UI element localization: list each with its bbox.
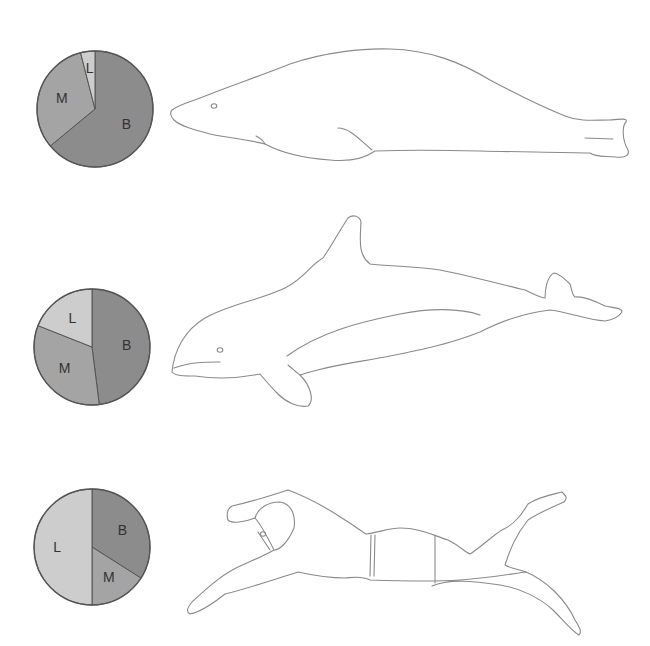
pie-label-B: B: [122, 337, 131, 353]
dolphin-figure: [160, 200, 640, 420]
pie-label-L: L: [69, 310, 77, 326]
row-manatee: BML: [0, 0, 650, 190]
manatee-figure: [160, 40, 640, 180]
pie-chart-2: BML: [27, 282, 157, 412]
pie-slice-L: [34, 489, 92, 605]
row-swimmer: BML: [0, 440, 650, 646]
pie-label-M: M: [103, 569, 115, 585]
swimmer-figure: [170, 480, 590, 640]
pie-label-M: M: [59, 360, 71, 376]
pie-label-L: L: [86, 60, 94, 76]
pie-slice-B: [92, 289, 150, 405]
row-dolphin: BML: [0, 190, 650, 440]
pie-label-L: L: [53, 539, 61, 555]
pie-label-M: M: [56, 90, 68, 106]
pie-chart-1: BML: [30, 44, 160, 174]
pie-chart-3: BML: [27, 482, 157, 612]
pie-label-B: B: [122, 116, 131, 132]
pie-label-B: B: [118, 522, 127, 538]
